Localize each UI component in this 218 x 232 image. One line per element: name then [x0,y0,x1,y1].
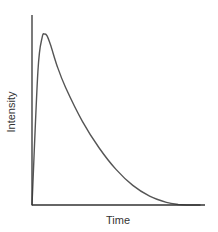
y-axis-label: Intensity [5,91,17,132]
intensity-curve [32,34,200,205]
x-axis-label: Time [106,214,130,226]
intensity-time-chart: Intensity Time [0,0,218,232]
plot-area [32,15,205,205]
